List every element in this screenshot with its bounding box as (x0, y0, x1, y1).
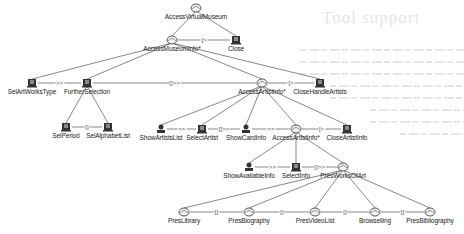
interaction-task-icon[interactable] (291, 163, 301, 172)
temporal-operator: [] (279, 209, 284, 215)
task-model-diagram (0, 0, 464, 234)
task-label: SelectArtist (186, 134, 218, 141)
interaction-task-icon[interactable] (103, 123, 113, 132)
task-label: AccessMuseumInfo* (143, 45, 201, 52)
task-label: PresLibrary (168, 217, 200, 224)
abstract-task-icon[interactable] (310, 208, 320, 216)
task-label: ShowArtistsList (140, 134, 183, 141)
task-label: SelAlphabetList (86, 132, 130, 139)
task-label: SelPeriod (52, 132, 79, 139)
task-label: ShowAvailableInfo (223, 172, 275, 179)
task-label: CloseArtistInfo (327, 134, 368, 141)
task-label: PresVideoList (296, 217, 335, 224)
task-label: SelectInfo (282, 172, 310, 179)
temporal-operator: >> (177, 126, 186, 132)
operator-lines (38, 40, 424, 212)
task-label: ShowCardInfo (226, 134, 266, 141)
user-task-icon[interactable] (245, 163, 253, 172)
task-label: PresBiography (228, 217, 269, 224)
user-task-icon[interactable] (157, 125, 165, 134)
temporal-operator: [] (400, 209, 405, 215)
abstract-task-icon[interactable] (191, 4, 201, 12)
abstract-task-icon[interactable] (179, 208, 189, 216)
interaction-task-icon[interactable] (315, 79, 325, 88)
task-label: FurtherSelection (64, 88, 110, 95)
user-task-icon[interactable] (242, 125, 250, 134)
temporal-operator: []>> (168, 80, 180, 86)
interaction-task-icon[interactable] (61, 123, 71, 132)
temporal-operator: [] (84, 124, 89, 130)
abstract-task-icon[interactable] (291, 125, 301, 133)
abstract-task-icon[interactable] (257, 79, 267, 87)
temporal-operator: [> (287, 80, 294, 86)
interaction-task-icon[interactable] (27, 79, 37, 88)
temporal-operator: []>> (218, 126, 230, 132)
interaction-task-icon[interactable] (82, 79, 92, 88)
task-label: PresBibliography (406, 217, 454, 224)
temporal-operator: [> (318, 126, 325, 132)
temporal-operator: >> (266, 126, 275, 132)
interaction-task-icon[interactable] (197, 125, 207, 134)
task-label: AccessArtistInfo* (238, 88, 285, 95)
temporal-operator: >> (55, 80, 64, 86)
abstract-task-icon[interactable] (338, 163, 348, 171)
abstract-task-icon[interactable] (244, 208, 254, 216)
task-label: Close (228, 45, 244, 52)
interaction-task-icon[interactable] (342, 125, 352, 134)
task-label: AccessVirtualMuseum (165, 13, 227, 20)
task-label: Browselling (359, 217, 391, 224)
abstract-task-icon[interactable] (425, 208, 435, 216)
task-label: AccessArtistInfo* (272, 134, 319, 141)
abstract-task-icon[interactable] (370, 208, 380, 216)
abstract-task-icon[interactable] (167, 36, 177, 44)
temporal-operator: [> (200, 37, 207, 43)
task-label: PresWorksOfArt (320, 172, 365, 179)
task-label: CloseHandleArtists (293, 88, 346, 95)
temporal-operator: [] (342, 209, 347, 215)
temporal-operator: []>> (313, 164, 325, 170)
task-label: SelArtWorksType (8, 88, 57, 95)
temporal-operator: [] (214, 209, 219, 215)
temporal-operator: >> (268, 164, 277, 170)
interaction-task-icon[interactable] (231, 36, 241, 45)
